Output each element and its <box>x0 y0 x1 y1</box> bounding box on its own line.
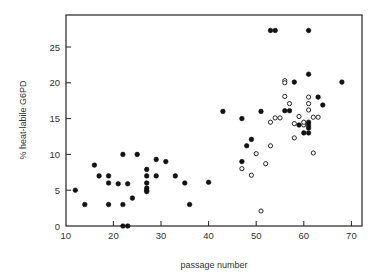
filled-data-point <box>206 180 211 185</box>
filled-data-point <box>306 126 311 131</box>
filled-data-point <box>83 202 88 207</box>
filled-data-point <box>244 144 249 149</box>
y-tick-label: 10 <box>49 149 60 160</box>
filled-data-point <box>221 109 226 114</box>
open-data-point <box>292 122 296 126</box>
filled-data-point <box>106 202 111 207</box>
open-data-point <box>268 120 272 124</box>
x-axis-ticks: 10203040506070 <box>61 221 357 241</box>
open-data-point <box>297 114 301 118</box>
filled-data-point <box>306 131 311 136</box>
filled-data-point <box>106 174 111 179</box>
open-data-point <box>240 167 244 171</box>
filled-data-point <box>125 224 130 229</box>
filled-data-point <box>121 202 126 207</box>
filled-data-point <box>164 159 169 164</box>
filled-data-point <box>306 28 311 33</box>
y-tick-label: 0 <box>55 221 60 232</box>
filled-data-point <box>144 189 149 194</box>
x-tick-label: 10 <box>61 230 72 241</box>
open-data-point <box>278 116 282 120</box>
y-axis-label: % heat-labile G6PD <box>18 80 28 160</box>
open-data-point <box>283 81 287 85</box>
open-data-point <box>311 115 315 119</box>
filled-data-point <box>273 28 278 33</box>
filled-data-point <box>144 181 149 186</box>
filled-data-point <box>106 181 111 186</box>
filled-data-point <box>135 152 140 157</box>
filled-data-point <box>283 108 288 113</box>
filled-data-point <box>297 123 302 128</box>
filled-data-point <box>144 174 149 179</box>
data-points <box>73 28 344 228</box>
open-data-point <box>307 95 311 99</box>
open-data-point <box>264 162 268 166</box>
y-tick-label: 5 <box>55 185 60 196</box>
filled-data-point <box>259 109 264 114</box>
open-data-point <box>311 151 315 155</box>
x-axis-label: passage number <box>180 260 247 270</box>
filled-data-point <box>292 80 297 85</box>
x-tick-label: 60 <box>299 230 310 241</box>
filled-data-point <box>316 95 321 100</box>
filled-data-point <box>97 174 102 179</box>
filled-data-point <box>306 72 311 77</box>
filled-data-point <box>187 202 192 207</box>
filled-data-point <box>73 188 78 193</box>
open-data-point <box>268 144 272 148</box>
y-tick-label: 20 <box>49 77 60 88</box>
x-tick-label: 30 <box>156 230 167 241</box>
open-data-point <box>307 102 311 106</box>
open-data-point <box>254 152 258 156</box>
open-data-point <box>273 116 277 120</box>
x-tick-label: 20 <box>108 230 119 241</box>
filled-data-point <box>240 159 245 164</box>
filled-data-point <box>173 174 178 179</box>
filled-data-point <box>121 224 126 229</box>
y-axis-ticks: 0510152025 <box>49 42 71 232</box>
open-data-point <box>307 108 311 112</box>
open-data-point <box>249 173 253 177</box>
filled-data-point <box>154 157 159 162</box>
y-tick-label: 15 <box>49 113 60 124</box>
x-tick-label: 50 <box>251 230 262 241</box>
filled-data-point <box>125 182 130 187</box>
filled-data-point <box>321 103 326 108</box>
filled-data-point <box>154 174 159 179</box>
plot-frame <box>66 15 362 226</box>
filled-data-point <box>287 108 292 113</box>
filled-data-point <box>340 80 345 85</box>
filled-data-point <box>92 163 97 168</box>
open-data-point <box>283 94 287 98</box>
scatter-chart: 10203040506070 0510152025 passage number… <box>0 0 377 280</box>
filled-data-point <box>268 28 273 33</box>
filled-data-point <box>183 181 188 186</box>
filled-data-point <box>116 182 121 187</box>
filled-data-point <box>240 116 245 121</box>
filled-data-point <box>121 152 126 157</box>
open-data-point <box>287 102 291 106</box>
open-data-point <box>316 115 320 119</box>
filled-data-point <box>249 137 254 142</box>
open-data-point <box>302 120 306 124</box>
filled-data-point <box>130 196 135 201</box>
x-tick-label: 70 <box>346 230 357 241</box>
filled-data-point <box>144 167 149 172</box>
open-data-point <box>259 209 263 213</box>
filled-data-point <box>302 131 307 136</box>
y-tick-label: 25 <box>49 42 60 53</box>
open-data-point <box>292 136 296 140</box>
x-tick-label: 40 <box>203 230 214 241</box>
